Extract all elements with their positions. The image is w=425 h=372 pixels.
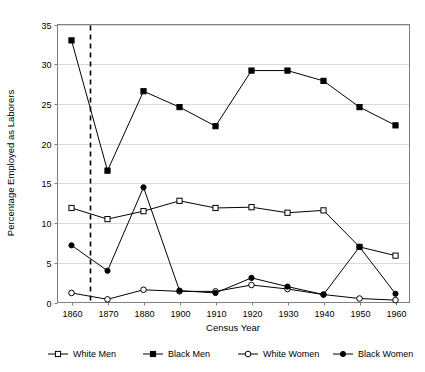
data-point-marker xyxy=(249,68,254,73)
data-point-marker xyxy=(213,205,218,210)
y-tick-label: 25 xyxy=(41,100,51,110)
legend-item-label: White Women xyxy=(263,349,319,359)
data-point-marker xyxy=(393,123,398,128)
x-tick-label: 1880 xyxy=(134,309,154,319)
data-point-marker xyxy=(321,208,326,213)
y-tick-label: 10 xyxy=(41,219,51,229)
data-point-marker xyxy=(177,105,182,110)
x-tick-label: 1910 xyxy=(206,309,226,319)
legend-marker-icon xyxy=(340,351,345,356)
x-tick-label: 1950 xyxy=(350,309,370,319)
legend-marker-icon xyxy=(55,351,60,356)
data-point-marker xyxy=(177,288,182,293)
x-tick-label: 1960 xyxy=(386,309,406,319)
data-point-marker xyxy=(177,198,182,203)
y-tick-label: 20 xyxy=(41,140,51,150)
y-axis-title: Percentage Employed as Laborers xyxy=(5,90,16,237)
data-point-marker xyxy=(69,290,75,296)
y-tick-label: 35 xyxy=(41,21,51,31)
data-point-marker xyxy=(393,297,399,303)
data-point-marker xyxy=(393,291,398,296)
data-point-marker xyxy=(321,292,326,297)
data-point-marker xyxy=(249,205,254,210)
y-tick-label: 5 xyxy=(46,259,51,269)
legend-marker-icon xyxy=(150,351,155,356)
data-point-marker xyxy=(249,275,254,280)
line-chart-svg: 05101520253035 1860187018801900191019201… xyxy=(0,0,425,372)
x-axis-title: Census Year xyxy=(206,322,260,333)
data-point-marker xyxy=(141,185,146,190)
data-point-marker xyxy=(249,282,255,288)
data-point-marker xyxy=(213,290,218,295)
data-point-marker xyxy=(141,287,147,293)
data-point-marker xyxy=(105,297,111,303)
data-point-marker xyxy=(357,105,362,110)
data-point-marker xyxy=(357,296,363,302)
data-point-marker xyxy=(105,217,110,222)
data-point-marker xyxy=(69,205,74,210)
x-tick-label: 1930 xyxy=(278,309,298,319)
x-tick-label: 1860 xyxy=(62,309,82,319)
y-tick-label: 0 xyxy=(46,299,51,309)
chart-container: 05101520253035 1860187018801900191019201… xyxy=(0,0,425,372)
x-tick-label: 1940 xyxy=(314,309,334,319)
data-point-marker xyxy=(141,209,146,214)
x-tick-label: 1870 xyxy=(98,309,118,319)
data-point-marker xyxy=(105,268,110,273)
x-tick-label: 1900 xyxy=(170,309,190,319)
data-point-marker xyxy=(285,68,290,73)
legend-marker-icon xyxy=(245,351,251,357)
legend-item-label: Black Women xyxy=(358,349,413,359)
data-point-marker xyxy=(285,210,290,215)
y-tick-label: 15 xyxy=(41,179,51,189)
data-point-marker xyxy=(141,89,146,94)
y-tick-label: 30 xyxy=(41,60,51,70)
data-point-marker xyxy=(105,168,110,173)
data-point-marker xyxy=(285,284,290,289)
x-tick-label: 1920 xyxy=(242,309,262,319)
data-point-marker xyxy=(393,253,398,258)
data-point-marker xyxy=(321,78,326,83)
legend-item-label: White Men xyxy=(73,349,116,359)
legend-item-label: Black Men xyxy=(168,349,210,359)
data-point-marker xyxy=(69,38,74,43)
data-point-marker xyxy=(69,243,74,248)
data-point-marker xyxy=(213,124,218,129)
data-point-marker xyxy=(357,244,362,249)
